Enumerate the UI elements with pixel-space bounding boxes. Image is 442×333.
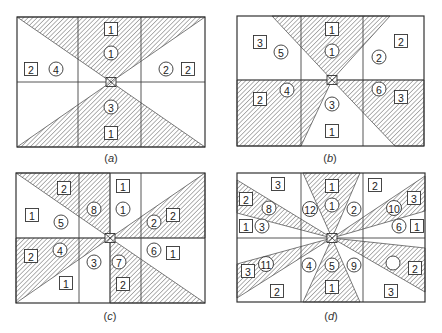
panel-caption: (b) (323, 152, 336, 164)
circle-label-text: 8 (266, 203, 272, 215)
circle-label: 11 (259, 257, 274, 272)
circle-label-text: 6 (376, 84, 382, 96)
panel-a: 12211423(a) (17, 17, 205, 164)
square-label: 2 (182, 63, 195, 76)
square-label-text: 1 (108, 24, 114, 36)
square-label-text: 2 (170, 210, 176, 222)
square-label: 1 (326, 281, 339, 294)
square-label: 2 (409, 262, 422, 275)
circle-label: 9 (347, 258, 361, 272)
square-label: 3 (408, 192, 421, 205)
circle-label: 6 (147, 243, 161, 257)
square-label: 2 (254, 93, 267, 106)
circle-label-text: 1 (329, 46, 335, 58)
circle-label: 3 (104, 100, 118, 114)
square-label: 2 (25, 63, 38, 76)
caption-paren: ) (114, 152, 118, 164)
square-label: 3 (272, 178, 285, 191)
square-label: 1 (60, 277, 73, 290)
square-label-text: 1 (29, 210, 35, 222)
caption-paren: ) (334, 310, 338, 322)
circle-label: 1 (104, 46, 118, 60)
square-label-text: 2 (412, 263, 418, 275)
circle-label-text: 2 (151, 217, 157, 229)
circle-label-text: 3 (108, 102, 114, 114)
circle-label-text: 3 (91, 257, 97, 269)
panel-c: 2112211281524637(c) (16, 173, 205, 322)
circle-label: 1 (325, 198, 339, 212)
circle-label-text: 2 (376, 52, 382, 64)
circle-label-text: 2 (351, 204, 357, 216)
circle-label: 7 (112, 255, 126, 269)
circle-label-text: 6 (396, 221, 402, 233)
circle-label: 5 (325, 258, 339, 272)
square-label-text: 1 (170, 248, 176, 260)
panel-caption: (d) (324, 310, 337, 322)
square-label: 1 (326, 23, 339, 36)
square-label-text: 2 (61, 183, 67, 195)
circle-label-text: 1 (329, 200, 335, 212)
square-label-text: 3 (411, 193, 417, 205)
square-label-text: 3 (275, 179, 281, 191)
circle-label: 3 (325, 97, 339, 111)
circle-label: 3 (87, 255, 101, 269)
square-label: 2 (25, 250, 38, 263)
center-marker-icon (327, 76, 337, 85)
square-label: 1 (26, 209, 39, 222)
circle-label: 1 (325, 44, 339, 58)
circle-label: 2 (147, 215, 161, 229)
square-label: 1 (105, 127, 118, 140)
square-label: 1 (411, 220, 424, 233)
circle-label: 5 (54, 215, 68, 229)
circle-label-text: 4 (53, 64, 59, 76)
circle-label-text: 3 (259, 221, 265, 233)
circle-label: 8 (87, 202, 101, 216)
panel-b: 132231512463(b) (237, 16, 424, 164)
circle-label-text: 2 (163, 64, 169, 76)
circle-label-text: 5 (329, 260, 335, 272)
square-label-text: 1 (63, 278, 69, 290)
square-label: 1 (117, 180, 130, 193)
circle-label: 4 (302, 258, 316, 272)
circle-label-text: 1 (108, 48, 114, 60)
square-label-text: 2 (398, 36, 404, 48)
circle-label: 2 (159, 62, 173, 76)
square-label: 1 (105, 23, 118, 36)
square-label-text: 2 (274, 286, 280, 298)
square-label: 1 (326, 180, 339, 193)
panel-caption: (a) (104, 152, 117, 164)
square-label-text: 3 (388, 286, 394, 298)
circle-label-text: 5 (278, 47, 284, 59)
circle-label: 6 (392, 219, 406, 233)
square-label: 2 (167, 209, 180, 222)
circle-label: 5 (274, 45, 288, 59)
circle-label-text: 5 (58, 217, 64, 229)
panel-d: 31223113221381212103611459(d) (237, 173, 425, 322)
square-label: 3 (254, 36, 267, 49)
panels: 12211423(a)132231512463(b)21122112815246… (16, 16, 425, 322)
square-label: 3 (385, 285, 398, 298)
figure-canvas: 12211423(a)132231512463(b)21122112815246… (0, 0, 442, 333)
square-label: 1 (167, 247, 180, 260)
panel-caption: (c) (104, 310, 117, 322)
center-marker-icon (106, 78, 116, 87)
square-label-text: 1 (329, 282, 335, 294)
caption-paren: ) (333, 152, 337, 164)
square-label-text: 3 (257, 37, 263, 49)
circle-label (386, 256, 400, 270)
square-label: 2 (58, 182, 71, 195)
circle-label: 8 (262, 201, 276, 215)
square-label: 2 (369, 179, 382, 192)
square-label-text: 2 (120, 279, 126, 291)
square-label-text: 1 (329, 126, 335, 138)
center-marker-icon (327, 234, 337, 243)
circle-label: 4 (280, 83, 294, 97)
circle-label-text: 9 (351, 260, 357, 272)
square-label-text: 1 (120, 181, 126, 193)
square-label: 2 (117, 278, 130, 291)
circle-label: 4 (49, 62, 63, 76)
circle-label: 2 (372, 50, 386, 64)
square-label: 2 (395, 35, 408, 48)
caption-paren: ) (113, 310, 117, 322)
square-label-text: 2 (243, 194, 249, 206)
